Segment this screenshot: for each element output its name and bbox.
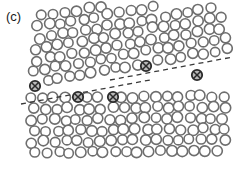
atom-circle	[110, 28, 121, 39]
atom-circle	[176, 125, 186, 135]
atom-circle	[162, 114, 172, 124]
atom-circle	[97, 147, 107, 157]
atom-circle	[207, 92, 217, 102]
atom-circle	[37, 114, 47, 124]
atom-circle	[62, 102, 73, 113]
figure-panel-c: (c)	[0, 0, 233, 169]
atom-circle	[50, 114, 61, 125]
atom-circle	[97, 127, 107, 137]
atom-circle	[198, 123, 208, 133]
atom-circle	[84, 104, 95, 115]
atom-circle	[52, 105, 62, 115]
atom-circle	[174, 136, 183, 145]
atom-circle	[139, 112, 150, 123]
atom-circle	[160, 33, 170, 43]
atom-circle	[118, 135, 128, 145]
atom-circle	[188, 48, 198, 58]
dislocation-marker-icon	[73, 92, 83, 102]
lattice-diagram	[0, 0, 233, 169]
atom-circle	[52, 39, 62, 49]
atom-circle	[180, 19, 190, 29]
atom-circle	[216, 12, 226, 22]
atom-circle	[153, 55, 163, 65]
atom-circle	[81, 25, 91, 35]
atom-circle	[111, 147, 121, 157]
atom-circle	[192, 26, 202, 36]
atom-circle	[50, 137, 60, 147]
atom-circle	[71, 115, 80, 124]
atom-circle	[41, 104, 51, 114]
atom-circle	[128, 48, 139, 59]
atom-circle	[164, 124, 174, 134]
atom-circle	[151, 92, 162, 103]
atom-circle	[153, 102, 163, 112]
atom-circle	[60, 92, 71, 103]
atom-circle	[38, 135, 49, 146]
atom-circle	[92, 92, 102, 102]
atom-circle	[50, 61, 60, 71]
atom-circle	[212, 146, 222, 156]
atom-circle	[141, 135, 151, 145]
atom-circle	[193, 4, 203, 14]
atom-circle	[68, 28, 78, 38]
atom-circle	[167, 146, 178, 157]
atom-circle	[151, 134, 161, 144]
atom-circle	[222, 43, 232, 53]
dislocation-marker-icon	[30, 81, 40, 91]
atom-circle	[207, 134, 217, 144]
atom-circle	[61, 116, 71, 126]
atom-circle	[29, 103, 39, 113]
atom-circle	[79, 48, 89, 58]
atom-circle	[101, 43, 111, 53]
atom-circle	[79, 15, 89, 25]
atom-circle	[161, 12, 171, 22]
dislocation-marker-icon	[141, 61, 151, 71]
atom-circle	[185, 102, 194, 111]
atom-circle	[193, 16, 203, 26]
atom-circle	[206, 3, 216, 13]
atom-circle	[30, 147, 40, 157]
atom-circle	[67, 48, 77, 58]
atom-circle	[60, 61, 70, 71]
atom-circle	[62, 136, 71, 145]
atom-circle	[139, 91, 149, 101]
atom-circle	[76, 147, 87, 158]
atom-circle	[106, 135, 117, 146]
atom-circle	[126, 6, 136, 16]
atom-circle	[76, 125, 86, 135]
atom-circle	[52, 73, 62, 83]
atom-circle	[36, 10, 46, 20]
atom-circle	[127, 113, 137, 123]
atom-circle	[220, 135, 230, 145]
atom-circle	[198, 49, 208, 59]
atom-circle	[152, 124, 162, 134]
atom-circle	[170, 20, 180, 30]
atom-circle	[66, 16, 76, 26]
atom-circle	[88, 147, 97, 156]
atom-circle	[198, 37, 208, 47]
atom-circle	[146, 34, 157, 45]
atom-circle	[102, 20, 112, 30]
atom-circle	[89, 13, 98, 22]
atom-circle	[206, 114, 215, 123]
atom-circle	[140, 103, 150, 113]
atom-circle	[120, 62, 131, 73]
atom-circle	[147, 22, 157, 32]
atom-circle	[87, 126, 98, 137]
atom-circle	[220, 33, 230, 43]
atom-circle	[114, 7, 124, 17]
atom-circle	[124, 18, 134, 28]
atom-circle	[58, 28, 68, 38]
atom-circle	[65, 71, 75, 81]
atom-circle	[108, 102, 118, 112]
atom-circle	[95, 136, 106, 147]
atom-circle	[219, 92, 229, 102]
atom-circle	[32, 57, 42, 67]
atom-circle	[163, 91, 172, 100]
atom-circle	[219, 124, 229, 134]
atom-circle	[141, 45, 150, 54]
atom-circle	[151, 113, 160, 122]
atom-circle	[174, 41, 184, 51]
atom-circle	[112, 40, 122, 50]
atom-circle	[127, 134, 137, 144]
